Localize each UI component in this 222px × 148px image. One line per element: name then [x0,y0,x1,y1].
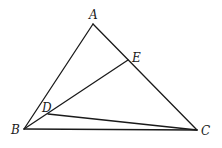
segment-ac [93,24,197,130]
label-a: A [88,8,98,22]
triangle-diagram: A B C D E [0,0,222,148]
label-e: E [131,51,141,65]
label-c: C [201,124,210,138]
segment-ab [24,24,93,129]
label-b: B [10,123,20,137]
segment-be [24,60,128,129]
label-d: D [41,101,52,115]
segment-dc [48,114,197,130]
segment-bc [24,129,197,130]
